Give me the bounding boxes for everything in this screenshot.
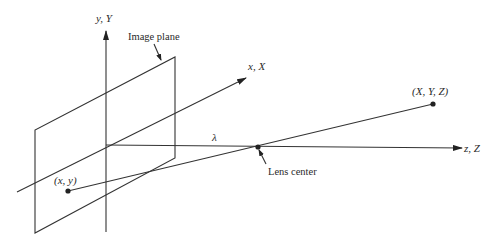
image-point-dot — [65, 188, 70, 193]
world-point-dot — [430, 101, 435, 106]
z-axis-label: z, Z — [463, 142, 481, 154]
lens-center-dot — [255, 144, 260, 149]
z-axis — [106, 145, 462, 148]
x-axis-label: x, X — [247, 60, 266, 72]
projection-diagram: y, Y Image plane x, X (X, Y, Z) λ z, Z L… — [0, 0, 485, 248]
image-plane-pointer — [154, 44, 161, 60]
lens-center-pointer — [259, 150, 266, 164]
image-plane-label: Image plane — [128, 31, 180, 42]
lens-center-label: Lens center — [268, 166, 317, 177]
image-point-label: (x, y) — [54, 174, 77, 187]
world-point-label: (X, Y, Z) — [412, 85, 449, 98]
y-axis-label: y, Y — [95, 12, 114, 24]
focal-length-label: λ — [211, 131, 217, 143]
